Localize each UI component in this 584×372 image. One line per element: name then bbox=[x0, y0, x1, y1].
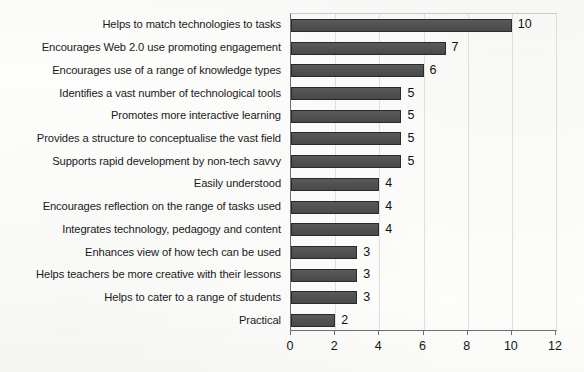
bar bbox=[291, 155, 401, 168]
x-tick-mark-2 bbox=[334, 331, 335, 335]
bar-value-label: 4 bbox=[385, 177, 392, 190]
chart-figure: Helps to match technologies to tasksEnco… bbox=[0, 0, 584, 372]
gridline-12 bbox=[556, 14, 557, 330]
gridline-4 bbox=[379, 14, 380, 330]
x-tick-mark-6 bbox=[423, 331, 424, 335]
bar-value-label: 7 bbox=[452, 41, 459, 54]
bar-value-label: 3 bbox=[363, 246, 370, 259]
bar-value-label: 3 bbox=[363, 268, 370, 281]
gridline-2 bbox=[335, 14, 336, 330]
category-label: Helps to cater to a range of students bbox=[104, 291, 281, 303]
bar bbox=[291, 42, 446, 55]
x-tick-label-0: 0 bbox=[287, 339, 294, 353]
category-label: Helps teachers be more creative with the… bbox=[36, 268, 281, 280]
bar bbox=[291, 110, 401, 123]
category-label: Supports rapid development by non-tech s… bbox=[52, 155, 281, 167]
bar-value-label: 5 bbox=[407, 87, 414, 100]
category-label: Enhances view of how tech can be used bbox=[85, 246, 281, 258]
x-tick-mark-10 bbox=[511, 331, 512, 335]
category-label: Integrates technology, pedagogy and cont… bbox=[62, 223, 281, 235]
bar-value-label: 5 bbox=[407, 132, 414, 145]
x-tick-label-12: 12 bbox=[548, 339, 562, 353]
bar-value-label: 4 bbox=[385, 200, 392, 213]
bar bbox=[291, 132, 401, 145]
bar-value-label: 3 bbox=[363, 291, 370, 304]
bar bbox=[291, 291, 357, 304]
category-label: Encourages use of a range of knowledge t… bbox=[52, 64, 281, 76]
gridline-8 bbox=[468, 14, 469, 330]
bar-value-label: 5 bbox=[407, 155, 414, 168]
category-label: Easily understood bbox=[194, 177, 281, 189]
bar-value-label: 4 bbox=[385, 223, 392, 236]
x-tick-label-6: 6 bbox=[419, 339, 426, 353]
bar bbox=[291, 178, 379, 191]
gridline-10 bbox=[512, 14, 513, 330]
bar-value-label: 6 bbox=[430, 64, 437, 77]
bar bbox=[291, 87, 401, 100]
bar-value-label: 2 bbox=[341, 314, 348, 327]
category-label: Practical bbox=[239, 314, 281, 326]
x-axis: 024681012 bbox=[290, 331, 557, 361]
category-label: Identifies a vast number of technologica… bbox=[59, 87, 281, 99]
x-tick-mark-12 bbox=[555, 331, 556, 335]
x-tick-label-2: 2 bbox=[331, 339, 338, 353]
x-tick-label-8: 8 bbox=[463, 339, 470, 353]
category-label: Provides a structure to conceptualise th… bbox=[37, 132, 281, 144]
category-label: Encourages reflection on the range of ta… bbox=[43, 200, 281, 212]
bar bbox=[291, 246, 357, 259]
bar bbox=[291, 223, 379, 236]
category-label: Promotes more interactive learning bbox=[111, 109, 281, 121]
x-tick-label-4: 4 bbox=[375, 339, 382, 353]
x-tick-label-10: 10 bbox=[504, 339, 518, 353]
bar bbox=[291, 19, 512, 32]
plot-area: 107655554443332 bbox=[290, 13, 557, 331]
bar-value-label: 5 bbox=[407, 109, 414, 122]
x-tick-mark-0 bbox=[290, 331, 291, 335]
x-tick-mark-8 bbox=[467, 331, 468, 335]
bar bbox=[291, 64, 424, 77]
x-tick-mark-4 bbox=[378, 331, 379, 335]
category-label-axis: Helps to match technologies to tasksEnco… bbox=[0, 13, 285, 331]
category-label: Encourages Web 2.0 use promoting engagem… bbox=[42, 41, 281, 53]
bar-value-label: 10 bbox=[518, 18, 532, 31]
gridline-6 bbox=[424, 14, 425, 330]
bar bbox=[291, 269, 357, 282]
bar bbox=[291, 314, 335, 327]
category-label: Helps to match technologies to tasks bbox=[102, 18, 281, 30]
bar bbox=[291, 201, 379, 214]
